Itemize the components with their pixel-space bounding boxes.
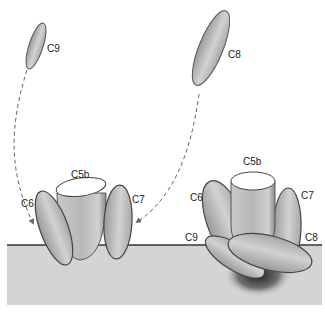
label-right-c6: C6 [190, 192, 203, 203]
label-left-c5b: C5b [71, 169, 90, 180]
label-right-c9: C9 [185, 232, 198, 243]
label-left-c6: C6 [21, 198, 34, 209]
label-right-c7: C7 [301, 190, 314, 201]
label-right-c8: C8 [305, 232, 318, 243]
label-left-c7: C7 [132, 194, 145, 205]
mac-assembly-diagram: C9 C8 C5b C6 C7 C5b C6 [0, 0, 325, 313]
free-c9: C9 [22, 21, 60, 71]
label-free-c9: C9 [47, 43, 60, 54]
label-right-c5b: C5b [243, 156, 262, 167]
free-c8: C8 [185, 6, 241, 89]
label-free-c8: C8 [228, 49, 241, 60]
